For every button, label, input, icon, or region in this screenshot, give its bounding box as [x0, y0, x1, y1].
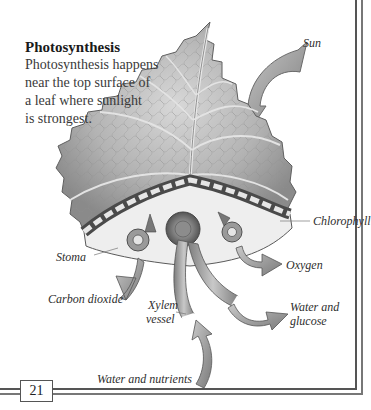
intro-body-line-2: near the top surface of: [25, 74, 175, 92]
label-xylem-line-1: Xylem: [148, 298, 178, 312]
label-water-glucose-line-2: glucose: [290, 314, 327, 328]
intro-body-line-4: is strongest.: [25, 110, 175, 128]
water-nutrients-arrow: [192, 320, 212, 388]
label-sun: Sun: [303, 36, 321, 50]
label-carbon-dioxide: Carbon dioxide: [48, 292, 123, 306]
label-water-glucose-line-1: Water and: [290, 300, 339, 314]
intro-body-line-3: a leaf where sunlight: [25, 92, 175, 110]
page-number-box: 21: [20, 380, 53, 402]
intro-body-line-1: Photosynthesis happens: [25, 56, 175, 74]
water-glucose-arrow: [228, 304, 288, 330]
intro-heading: Photosynthesis: [25, 38, 175, 56]
label-water-nutrients: Water and nutrients: [97, 372, 192, 386]
label-chlorophyll: Chlorophyll: [313, 214, 371, 228]
label-xylem-line-2: vessel: [146, 312, 175, 326]
intro-text-block: Photosynthesis Photosynthesis happens ne…: [25, 38, 175, 128]
label-stoma: Stoma: [56, 250, 86, 264]
label-oxygen: Oxygen: [286, 258, 323, 272]
